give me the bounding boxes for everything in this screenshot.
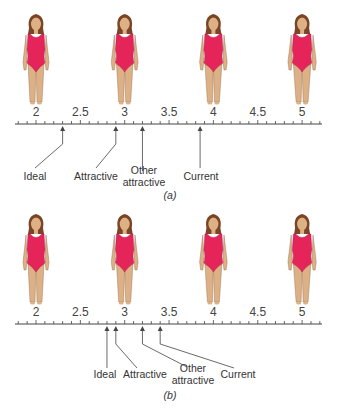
tick-label: 4.5 (249, 105, 266, 119)
tick-label: 2 (33, 105, 40, 119)
marker-attractive: Attractive (74, 126, 118, 182)
figure-size-5 (288, 14, 316, 105)
scale-axis (15, 320, 322, 324)
marker-ideal: Ideal (24, 126, 66, 182)
tick-label: 4 (210, 305, 217, 319)
panel-a: 22.533.544.55IdealAttractiveOtherattract… (15, 14, 322, 201)
tick-label: 2 (33, 305, 40, 319)
marker-label: Ideal (24, 170, 47, 182)
panel-caption: (a) (164, 189, 177, 201)
marker-label: attractive (123, 176, 166, 188)
marker-label: attractive (172, 374, 215, 386)
marker-label: Attractive (74, 170, 118, 182)
figure-size-3 (111, 14, 138, 105)
figure-size-2 (23, 214, 49, 305)
tick-label: 3 (121, 105, 128, 119)
marker-label: Other (180, 362, 207, 374)
figure-size-2 (23, 14, 49, 105)
tick-label: 4 (210, 105, 217, 119)
tick-label: 3.5 (161, 105, 178, 119)
tick-label: 4.5 (249, 305, 266, 319)
marker-current: Current (183, 126, 218, 182)
tick-label: 3.5 (161, 305, 178, 319)
tick-label: 5 (299, 305, 306, 319)
marker-label: Current (183, 170, 218, 182)
marker-current: Current (158, 326, 256, 380)
marker-ideal: Ideal (94, 326, 117, 380)
panel-caption: (b) (164, 389, 177, 401)
tick-label: 2.5 (72, 305, 89, 319)
figure-size-4 (200, 14, 228, 105)
figure-size-5 (288, 214, 316, 305)
marker-attractive: Attractive (113, 326, 167, 380)
tick-label: 5 (299, 105, 306, 119)
figure-size-4 (200, 214, 228, 305)
body-size-diagram: 22.533.544.55IdealAttractiveOtherattract… (0, 0, 339, 414)
tick-label: 3 (121, 305, 128, 319)
figure-size-3 (111, 214, 138, 305)
panel-b: 22.533.544.55IdealAttractiveOtherattract… (15, 214, 322, 401)
marker-label: Current (220, 368, 255, 380)
marker-label: Ideal (94, 368, 117, 380)
tick-label: 2.5 (72, 105, 89, 119)
scale-axis (15, 120, 322, 124)
marker-label: Attractive (123, 368, 167, 380)
marker-other-attractive: Otherattractive (123, 126, 166, 188)
marker-label: Other (131, 164, 158, 176)
